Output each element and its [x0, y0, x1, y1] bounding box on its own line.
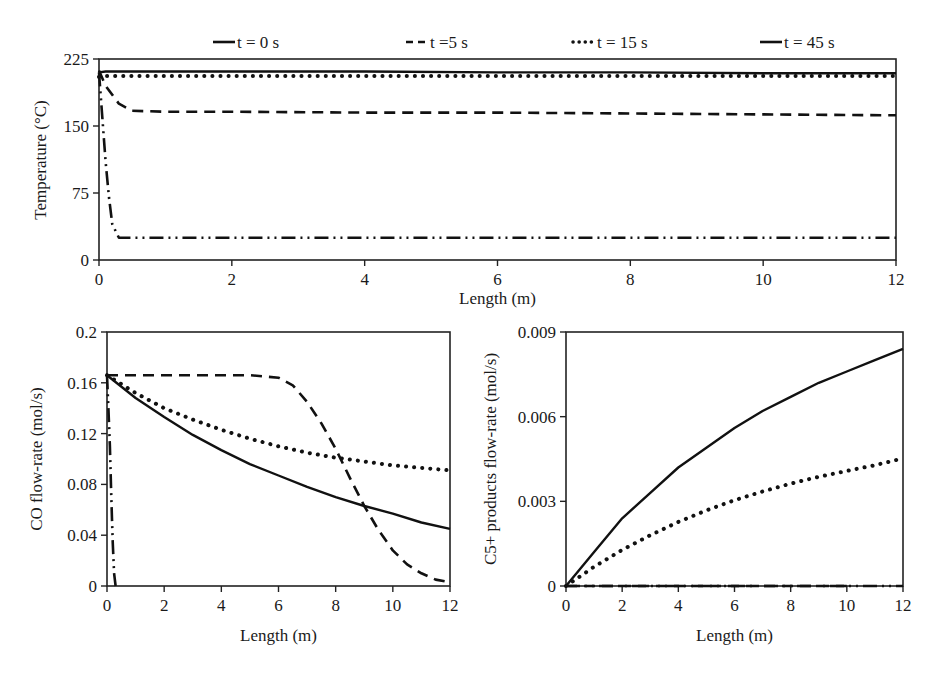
- series-line: [566, 458, 903, 586]
- x-tick-label: 4: [674, 596, 683, 615]
- y-axis-title: Temperature (°C): [31, 100, 50, 219]
- x-tick-label: 10: [838, 596, 855, 615]
- series-line: [99, 71, 896, 116]
- y-axis-title: CO flow-rate (mol/s): [27, 387, 46, 531]
- series-line: [566, 349, 903, 586]
- series-line: [107, 375, 450, 529]
- y-tick-label: 150: [64, 117, 90, 136]
- series-line: [99, 76, 896, 77]
- co-flow-rate-chart: 02468101200.040.080.120.160.2Length (m)C…: [27, 323, 459, 645]
- x-tick-label: 12: [895, 596, 912, 615]
- legend-label: t = 45 s: [784, 33, 835, 52]
- y-tick-label: 0: [89, 577, 98, 596]
- plot-frame: [107, 332, 450, 586]
- y-tick-label: 0.003: [518, 492, 556, 511]
- y-tick-label: 0.16: [67, 374, 97, 393]
- x-axis-title: Length (m): [240, 626, 317, 645]
- temperature-chart: 024681012075150225Length (m)Temperature …: [31, 50, 905, 308]
- x-axis-title: Length (m): [459, 289, 536, 308]
- series-line: [107, 375, 450, 470]
- legend-label: t = 15 s: [597, 33, 648, 52]
- legend: t = 0 st =5 st = 15 st = 45 s: [213, 33, 835, 52]
- x-tick-label: 8: [626, 270, 635, 289]
- y-tick-label: 0.2: [76, 323, 97, 342]
- x-tick-label: 4: [217, 596, 226, 615]
- x-axis-title: Length (m): [696, 626, 773, 645]
- y-tick-label: 0.08: [67, 475, 97, 494]
- figure: t = 0 st =5 st = 15 st = 45 s 0246810120…: [0, 0, 939, 673]
- y-tick-label: 0: [81, 251, 90, 270]
- series-line: [99, 72, 896, 74]
- y-tick-label: 225: [64, 50, 90, 69]
- x-tick-label: 0: [562, 596, 571, 615]
- legend-label: t =5 s: [430, 33, 468, 52]
- x-tick-label: 8: [786, 596, 795, 615]
- y-tick-label: 0.009: [518, 323, 556, 342]
- x-tick-label: 10: [755, 270, 772, 289]
- x-tick-label: 2: [160, 596, 169, 615]
- x-tick-label: 2: [618, 596, 627, 615]
- x-tick-label: 10: [384, 596, 401, 615]
- x-tick-label: 4: [360, 270, 369, 289]
- series-line: [99, 72, 896, 237]
- x-tick-label: 0: [95, 270, 104, 289]
- series-line: [107, 375, 116, 586]
- x-tick-label: 2: [228, 270, 237, 289]
- x-tick-label: 6: [274, 596, 283, 615]
- y-tick-label: 0.04: [67, 526, 97, 545]
- x-tick-label: 0: [103, 596, 112, 615]
- y-tick-label: 0: [548, 577, 557, 596]
- y-axis-title: C5+ products flow-rate (mol/s): [481, 353, 500, 565]
- plot-frame: [99, 59, 896, 260]
- x-tick-label: 6: [493, 270, 502, 289]
- x-tick-label: 12: [442, 596, 459, 615]
- x-tick-label: 12: [888, 270, 905, 289]
- x-tick-label: 6: [730, 596, 739, 615]
- series-line: [107, 375, 450, 582]
- y-tick-label: 75: [72, 184, 89, 203]
- y-tick-label: 0.12: [67, 425, 97, 444]
- legend-label: t = 0 s: [237, 33, 279, 52]
- c5-products-flow-rate-chart: 02468101200.0030.0060.009Length (m)C5+ p…: [481, 323, 912, 645]
- x-tick-label: 8: [331, 596, 340, 615]
- y-tick-label: 0.006: [518, 408, 556, 427]
